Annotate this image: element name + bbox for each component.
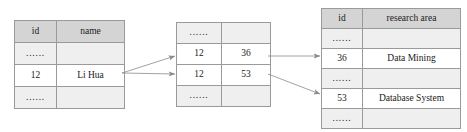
- research-area-table: id research area ...... 36 Data Mining .…: [321, 8, 461, 129]
- research-cell-id: ......: [322, 109, 363, 129]
- relation-cell-a: ......: [177, 86, 222, 107]
- table-row: 53 Database System: [322, 89, 461, 109]
- student-cell-name: [57, 87, 125, 109]
- relation-cell-a: ......: [177, 23, 222, 44]
- student-header-name: name: [57, 21, 125, 43]
- research-cell-area: [363, 109, 461, 129]
- research-cell-area: [363, 29, 461, 49]
- table-row: id name: [15, 21, 125, 43]
- research-cell-area: [363, 69, 461, 89]
- student-header-id: id: [15, 21, 57, 43]
- student-cell-id: 12: [15, 65, 57, 87]
- relation-cell-b: 36: [222, 44, 271, 65]
- research-header-id: id: [322, 9, 363, 29]
- table-row: ......: [322, 69, 461, 89]
- relation-cell-b: 53: [222, 65, 271, 86]
- table-row: ......: [177, 86, 271, 107]
- table-row: id research area: [322, 9, 461, 29]
- table-row: ......: [322, 109, 461, 129]
- table-row: ......: [177, 23, 271, 44]
- research-cell-area: Data Mining: [363, 49, 461, 69]
- research-cell-id: 53: [322, 89, 363, 109]
- table-row: 36 Data Mining: [322, 49, 461, 69]
- table-row: 12 53: [177, 65, 271, 86]
- student-cell-name: [57, 43, 125, 65]
- table-row: 12 36: [177, 44, 271, 65]
- table-row: ......: [15, 87, 125, 109]
- research-cell-id: 36: [322, 49, 363, 69]
- er-diagram: id name ...... 12 Li Hua ...... ......: [0, 0, 467, 132]
- table-row: ......: [322, 29, 461, 49]
- research-cell-area: Database System: [363, 89, 461, 109]
- student-cell-id: ......: [15, 87, 57, 109]
- relation-cell-b: [222, 23, 271, 44]
- research-cell-id: ......: [322, 69, 363, 89]
- relation-cell-a: 12: [177, 44, 222, 65]
- relation-cell-a: 12: [177, 65, 222, 86]
- student-cell-name: Li Hua: [57, 65, 125, 87]
- student-cell-id: ......: [15, 43, 57, 65]
- student-table: id name ...... 12 Li Hua ......: [14, 20, 125, 109]
- relation-table: ...... 12 36 12 53 ......: [176, 22, 271, 107]
- table-row: 12 Li Hua: [15, 65, 125, 87]
- relation-cell-b: [222, 86, 271, 107]
- student-12-to-relation-12-53: [122, 73, 175, 74]
- research-cell-id: ......: [322, 29, 363, 49]
- student-12-to-relation-12-36: [122, 56, 175, 73]
- research-header-area: research area: [363, 9, 461, 29]
- relation-53-to-research-53: [268, 74, 320, 94]
- table-row: ......: [15, 43, 125, 65]
